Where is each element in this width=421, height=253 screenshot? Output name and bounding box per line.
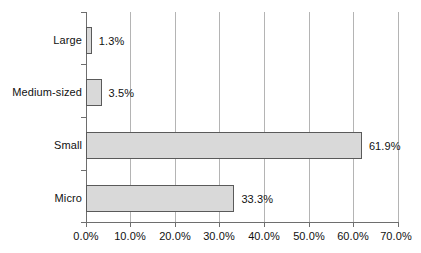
bar-small[interactable] — [86, 132, 362, 159]
x-axis-tick-0 — [86, 222, 87, 227]
horizontal-bar-chart: 1.3% 3.5% 61.9% 33.3% Large Medium-sized… — [0, 0, 421, 253]
y-axis-labels: Large Medium-sized Small Micro — [0, 0, 82, 253]
bar-value-medium-sized: 3.5% — [109, 87, 134, 99]
bar-medium-sized[interactable] — [86, 79, 102, 106]
x-axis-tick-label-60: 60.0% — [337, 230, 369, 242]
x-axis-tick-label-20: 20.0% — [159, 230, 191, 242]
x-axis-tick-50 — [309, 222, 310, 227]
x-axis-tick-20 — [175, 222, 176, 227]
x-axis-tick-60 — [353, 222, 354, 227]
x-axis-tick-label-0: 0.0% — [73, 230, 98, 242]
bar-micro[interactable] — [86, 185, 234, 212]
x-axis-tick-10 — [130, 222, 131, 227]
category-label-medium-sized: Medium-sized — [2, 86, 82, 98]
gridline-70 — [398, 12, 399, 222]
x-axis-tick-40 — [264, 222, 265, 227]
x-axis-tick-label-10: 10.0% — [114, 230, 146, 242]
x-axis-tick-label-30: 30.0% — [203, 230, 235, 242]
bar-value-small: 61.9% — [369, 140, 401, 152]
bar-large[interactable] — [86, 27, 92, 54]
category-label-large: Large — [2, 34, 82, 46]
x-axis-tick-30 — [219, 222, 220, 227]
x-axis-tick-70 — [398, 222, 399, 227]
plot-area: 1.3% 3.5% 61.9% 33.3% — [86, 12, 398, 222]
x-axis-tick-label-50: 50.0% — [293, 230, 325, 242]
bar-value-large: 1.3% — [99, 35, 124, 47]
bar-value-micro: 33.3% — [241, 193, 273, 205]
category-label-micro: Micro — [2, 192, 82, 204]
x-axis-tick-label-70: 70.0% — [380, 230, 412, 242]
gridline-40 — [264, 12, 265, 222]
gridline-60 — [353, 12, 354, 222]
x-axis-tick-label-40: 40.0% — [248, 230, 280, 242]
gridline-50 — [309, 12, 310, 222]
category-label-small: Small — [2, 139, 82, 151]
